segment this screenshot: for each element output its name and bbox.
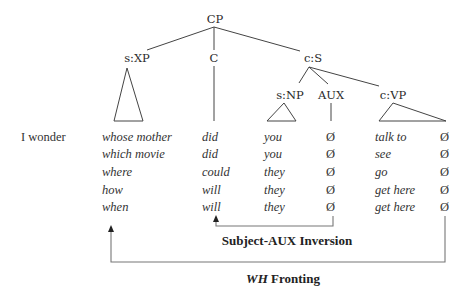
row-c: did <box>202 130 219 144</box>
row-gap: Ø <box>440 147 449 161</box>
subject-aux-label: Subject-AUX Inversion <box>222 233 353 248</box>
row-4: how will they Ø get here Ø <box>102 183 449 197</box>
edge-cp-cs <box>214 27 300 51</box>
row-np: you <box>262 130 282 144</box>
syntax-tree-diagram: CP s:XP C c:S s:NP AUX c:VP I wonder who… <box>0 0 469 293</box>
row-wh: which movie <box>102 147 165 161</box>
row-aux: Ø <box>326 130 335 144</box>
edge-cp-sxp <box>147 27 214 50</box>
row-gap: Ø <box>440 183 449 197</box>
row-gap: Ø <box>440 200 449 214</box>
row-gap: Ø <box>440 130 449 144</box>
row-c: did <box>202 147 219 161</box>
row-c: will <box>202 183 221 197</box>
row-vp: get here <box>375 200 416 214</box>
row-aux: Ø <box>326 165 335 179</box>
subject-aux-arrow <box>216 216 333 226</box>
node-aux: AUX <box>317 88 345 102</box>
row-wh: where <box>102 165 133 179</box>
row-vp: talk to <box>375 130 407 144</box>
wh-fronting-rest: Fronting <box>268 271 321 286</box>
node-c-vp: c:VP <box>380 88 407 102</box>
row-vp: go <box>375 165 388 179</box>
row-np: they <box>264 165 285 179</box>
row-np: they <box>264 183 285 197</box>
row-3: where could they Ø go Ø <box>102 165 449 179</box>
row-wh: whose mother <box>102 130 172 144</box>
wh-fronting-label: WH Fronting <box>246 271 320 286</box>
triangle-s-xp <box>114 68 143 121</box>
node-c: C <box>210 51 219 65</box>
row-np: you <box>262 147 282 161</box>
edge-cs-snp <box>299 67 309 83</box>
node-s-xp: s:XP <box>124 51 150 65</box>
row-1: whose mother did you Ø talk to Ø <box>102 130 449 144</box>
wh-fronting-arrowhead-icon <box>108 225 114 232</box>
row-wh: how <box>102 183 124 197</box>
row-5: when will they Ø get here Ø <box>102 200 449 214</box>
row-aux: Ø <box>326 183 335 197</box>
matrix-clause: I wonder <box>21 130 67 144</box>
wh-fronting-em: WH <box>246 271 269 286</box>
row-wh: when <box>102 200 128 214</box>
row-c: could <box>202 165 231 179</box>
node-s-np: s:NP <box>276 88 304 102</box>
row-vp: get here <box>375 183 416 197</box>
row-aux: Ø <box>326 147 335 161</box>
row-gap: Ø <box>440 165 449 179</box>
triangle-s-np <box>267 103 296 121</box>
node-c-s: c:S <box>304 51 322 65</box>
node-cp: CP <box>207 12 224 26</box>
row-c: will <box>202 200 221 214</box>
row-vp: see <box>375 147 391 161</box>
row-2: which movie did you Ø see Ø <box>102 147 449 161</box>
row-aux: Ø <box>326 200 335 214</box>
subject-aux-arrowhead-icon <box>213 215 219 222</box>
row-np: they <box>264 200 285 214</box>
triangle-c-vp <box>379 103 446 121</box>
